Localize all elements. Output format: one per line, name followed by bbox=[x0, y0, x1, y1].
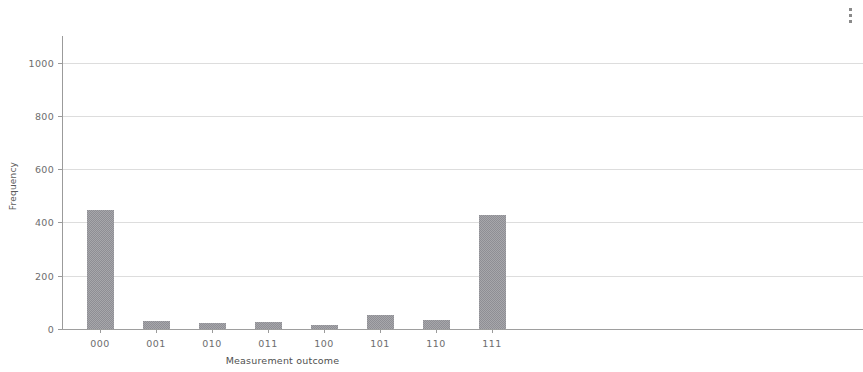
bar-011[interactable] bbox=[255, 322, 282, 329]
x-axis-spine bbox=[62, 329, 863, 330]
x-tick-label-001: 001 bbox=[146, 338, 165, 349]
y-tick-label: 0 bbox=[48, 324, 54, 335]
bar-000[interactable] bbox=[87, 210, 114, 329]
kebab-menu-icon[interactable] bbox=[843, 4, 857, 26]
kebab-dot-1 bbox=[849, 8, 852, 11]
x-tick-label-011: 011 bbox=[258, 338, 277, 349]
y-gridline bbox=[62, 169, 863, 170]
y-gridline bbox=[62, 222, 863, 223]
x-tick-label-100: 100 bbox=[314, 338, 333, 349]
y-gridline bbox=[62, 116, 863, 117]
x-tick-label-010: 010 bbox=[202, 338, 221, 349]
bar-111[interactable] bbox=[479, 215, 506, 329]
bar-110[interactable] bbox=[423, 320, 450, 329]
y-gridline bbox=[62, 276, 863, 277]
y-tick-label: 600 bbox=[35, 164, 54, 175]
x-tick-label-111: 111 bbox=[482, 338, 501, 349]
y-gridline bbox=[62, 63, 863, 64]
x-tick-label-000: 000 bbox=[90, 338, 109, 349]
y-axis-title: Frequency bbox=[2, 0, 24, 372]
kebab-dot-3 bbox=[849, 20, 852, 23]
x-tick-label-101: 101 bbox=[370, 338, 389, 349]
histogram-figure: Frequency 020040060080010000000010100111… bbox=[0, 0, 863, 372]
y-tick-label: 800 bbox=[35, 110, 54, 121]
x-axis-title: Measurement outcome bbox=[58, 355, 863, 366]
y-tick-label: 1000 bbox=[29, 57, 54, 68]
y-axis-title-text: Frequency bbox=[8, 162, 18, 210]
bar-001[interactable] bbox=[143, 321, 170, 329]
y-tick-label: 400 bbox=[35, 217, 54, 228]
plot-area: 0200400600800100000000101001110010111011… bbox=[62, 36, 863, 329]
y-tick-label: 200 bbox=[35, 270, 54, 281]
y-axis-spine bbox=[62, 36, 63, 329]
bar-101[interactable] bbox=[367, 315, 394, 329]
kebab-dot-2 bbox=[849, 14, 852, 17]
x-tick-label-110: 110 bbox=[426, 338, 445, 349]
x-axis-title-text: Measurement outcome bbox=[226, 355, 340, 366]
